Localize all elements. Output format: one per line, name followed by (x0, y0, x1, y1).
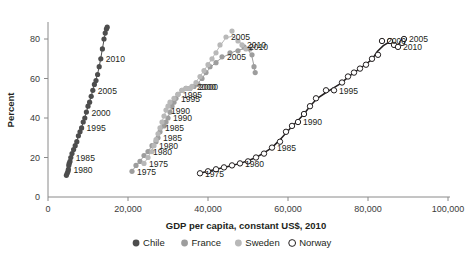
data-point-sweden (141, 161, 146, 166)
data-point-norway (197, 171, 202, 176)
legend-label-chile: Chile (143, 237, 165, 248)
point-label-chile-1995: 1995 (87, 123, 106, 133)
data-point-chile (93, 78, 98, 83)
data-point-sweden (223, 34, 228, 39)
data-point-chile (105, 25, 110, 30)
data-point-norway (269, 145, 274, 150)
data-point-chile (90, 88, 95, 93)
data-point-chile (100, 46, 105, 51)
legend-label-norway: Norway (299, 237, 331, 248)
data-point-chile (95, 72, 100, 77)
data-point-france (249, 52, 254, 57)
legend-label-france: France (192, 237, 222, 248)
data-point-sweden (201, 68, 206, 73)
data-point-norway (289, 123, 294, 128)
data-point-norway (229, 163, 234, 168)
point-label-chile-2005: 2005 (98, 86, 117, 96)
data-point-sweden (167, 100, 172, 105)
legend-marker-france (181, 240, 188, 247)
y-tick-label: 80 (30, 34, 40, 44)
data-point-chile (74, 139, 79, 144)
legend-marker-sweden (235, 240, 242, 247)
legend-marker-chile (133, 240, 140, 247)
data-point-sweden (153, 137, 158, 142)
point-label-sweden-2010: 2010 (247, 40, 266, 50)
data-point-chile (84, 110, 89, 115)
x-tick-label: 0 (45, 204, 50, 214)
data-point-sweden (239, 42, 244, 47)
data-point-sweden (217, 42, 222, 47)
data-point-norway (339, 80, 344, 85)
data-point-chile (97, 64, 102, 69)
point-label-sweden-1985: 1985 (165, 123, 184, 133)
point-label-sweden-1980: 1980 (159, 141, 178, 151)
x-tick-label: 60,000 (274, 204, 302, 214)
data-point-norway (345, 74, 350, 79)
point-label-chile-2000: 2000 (91, 108, 110, 118)
y-axis-title: Percent (5, 92, 16, 128)
data-point-sweden (171, 96, 176, 101)
data-point-sweden (159, 119, 164, 124)
data-point-norway (301, 111, 306, 116)
data-point-france (219, 54, 224, 59)
x-axis-title: GDP per capita, constant US$, 2010 (166, 220, 326, 231)
data-point-chile (98, 56, 103, 61)
x-tick-label: 80,000 (354, 204, 382, 214)
data-point-chile (89, 94, 94, 99)
data-point-sweden (157, 125, 162, 130)
point-label-norway-1975: 1975 (205, 169, 224, 179)
data-point-norway (379, 38, 384, 43)
data-point-norway (237, 161, 242, 166)
data-point-norway (351, 70, 356, 75)
point-label-chile-2010: 2010 (106, 54, 125, 64)
point-label-norway-1995: 1995 (339, 86, 358, 96)
data-point-sweden (161, 113, 166, 118)
legend-marker-norway (289, 240, 296, 247)
point-label-france-2005: 2005 (227, 52, 246, 62)
y-tick-label: 60 (30, 74, 40, 84)
data-point-sweden (155, 131, 160, 136)
data-point-sweden (209, 56, 214, 61)
y-tick-label: 20 (30, 153, 40, 163)
y-tick-label: 40 (30, 113, 40, 123)
data-point-norway (375, 52, 380, 57)
data-point-norway (307, 104, 312, 109)
data-point-norway (363, 62, 368, 67)
point-label-norway-1990: 1990 (303, 117, 322, 127)
point-label-norway-1980: 1980 (245, 159, 264, 169)
x-tick-label: 100,000 (432, 204, 465, 214)
data-point-france (213, 60, 218, 65)
data-point-france (251, 64, 256, 69)
data-point-norway (261, 151, 266, 156)
data-point-chile (101, 36, 106, 41)
data-point-chile (87, 100, 92, 105)
data-point-sweden (205, 62, 210, 67)
data-point-chile (82, 115, 87, 120)
data-point-norway (283, 129, 288, 134)
data-point-sweden (197, 74, 202, 79)
point-label-norway-2005: 2005 (409, 34, 428, 44)
data-point-norway (313, 96, 318, 101)
point-label-chile-1980: 1980 (73, 165, 92, 175)
data-point-norway (323, 88, 328, 93)
data-point-france (129, 169, 134, 174)
data-point-chile (79, 125, 84, 130)
y-tick-label: 0 (35, 192, 40, 202)
legend-label-sweden: Sweden (245, 237, 279, 248)
data-point-sweden (175, 92, 180, 97)
data-point-france (253, 70, 258, 75)
data-point-norway (369, 56, 374, 61)
point-label-chile-1985: 1985 (76, 153, 95, 163)
x-tick-label: 20,000 (114, 204, 142, 214)
point-label-sweden-2000: 2000 (197, 82, 216, 92)
x-tick-label: 40,000 (194, 204, 222, 214)
data-point-norway (295, 119, 300, 124)
data-point-sweden (213, 50, 218, 55)
scatter-chart: 020406080 020,00040,00060,00080,000100,0… (0, 0, 473, 257)
point-label-sweden-1990: 1990 (171, 106, 190, 116)
chart-container: 020406080 020,00040,00060,00080,000100,0… (0, 0, 473, 257)
point-label-sweden-1975: 1975 (149, 159, 168, 169)
data-point-sweden (189, 84, 194, 89)
data-point-norway (357, 66, 362, 71)
point-label-norway-1985: 1985 (277, 143, 296, 153)
